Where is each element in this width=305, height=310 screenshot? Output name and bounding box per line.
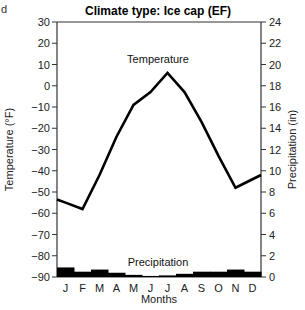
y2-tick-label: 2: [269, 250, 275, 262]
precipitation-bar: [193, 272, 211, 277]
y-tick-label: −10: [31, 101, 50, 113]
precipitation-bar: [210, 272, 228, 277]
x-tick-label: M: [95, 282, 104, 294]
y2-tick-label: 14: [269, 122, 281, 134]
precipitation-bar: [74, 272, 92, 277]
y-tick-label: −30: [31, 144, 50, 156]
y-tick-label: 0: [44, 80, 50, 92]
x-tick-label: N: [232, 282, 240, 294]
precipitation-bar: [227, 270, 245, 277]
y-tick-label: 30: [38, 16, 50, 28]
y-axis-label: Temperature (°F): [3, 108, 15, 191]
y-tick-label: −60: [31, 207, 50, 219]
y2-tick-label: 24: [269, 16, 281, 28]
temperature-line: [57, 73, 261, 209]
chart-title: Climate type: Ice cap (EF): [85, 4, 231, 18]
x-tick-label: M: [129, 282, 138, 294]
x-tick-label: S: [198, 282, 205, 294]
precipitation-bar: [91, 270, 109, 277]
y2-axis-label: Precipitation (in): [286, 110, 298, 189]
precipitation-bar: [125, 275, 143, 277]
precipitation-bar: [57, 267, 75, 277]
y-tick-label: 20: [38, 37, 50, 49]
y2-tick-label: 6: [269, 207, 275, 219]
x-tick-label: D: [249, 282, 257, 294]
climate-chart: Climate type: Ice cap (EF) 3020100−10−20…: [0, 0, 305, 310]
precipitation-bar: [108, 273, 126, 277]
x-tick-label: O: [214, 282, 223, 294]
x-tick-label: F: [79, 282, 86, 294]
x-tick-label: A: [113, 282, 121, 294]
precipitation-bars: [57, 267, 262, 277]
y2-tick-label: 10: [269, 165, 281, 177]
y2-tick-label: 22: [269, 37, 281, 49]
x-axis-label: Months: [141, 293, 178, 305]
y2-tick-label: 18: [269, 80, 281, 92]
y2-tick-label: 12: [269, 144, 281, 156]
y-tick-label: 10: [38, 59, 50, 71]
precipitation-annotation: Precipitation: [128, 256, 189, 268]
precipitation-bar: [244, 272, 262, 277]
y-tick-label: −90: [31, 271, 50, 283]
y-tick-label: −50: [31, 186, 50, 198]
y2-tick-label: 4: [269, 229, 275, 241]
y2-tick-label: 16: [269, 101, 281, 113]
temperature-annotation: Temperature: [127, 53, 189, 65]
precipitation-bar: [176, 274, 194, 277]
y-tick-label: −40: [31, 165, 50, 177]
precipitation-bar: [142, 276, 160, 277]
y-tick-label: −20: [31, 122, 50, 134]
precipitation-bar: [159, 275, 177, 277]
x-tick-label: A: [181, 282, 189, 294]
y-tick-label: −70: [31, 229, 50, 241]
y2-tick-label: 0: [269, 271, 275, 283]
y-tick-label: −80: [31, 250, 50, 262]
y2-tick-label: 20: [269, 59, 281, 71]
y2-tick-label: 8: [269, 186, 275, 198]
x-tick-label: J: [63, 282, 69, 294]
temperature-line-group: [57, 73, 261, 209]
